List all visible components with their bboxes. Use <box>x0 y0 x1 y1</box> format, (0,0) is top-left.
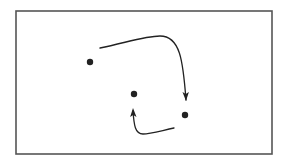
dot-3 <box>182 112 188 118</box>
arrow-1 <box>100 36 189 101</box>
nodes-group <box>87 59 188 118</box>
arrows-group <box>100 36 189 134</box>
arrow-2-line <box>133 111 174 134</box>
diagram-canvas <box>0 0 288 165</box>
arrow-2 <box>130 108 174 134</box>
arrow-1-line <box>100 36 186 100</box>
dot-2 <box>131 91 137 97</box>
dot-1 <box>87 59 93 65</box>
diagram-frame <box>16 11 272 154</box>
